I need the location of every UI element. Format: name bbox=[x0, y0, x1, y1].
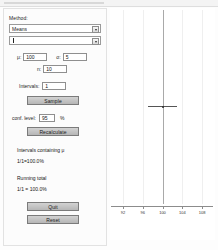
gridline bbox=[202, 10, 203, 204]
intervals-containing-heading: Intervals containing μ bbox=[9, 146, 101, 154]
control-panel: Method: Means μ: 100 σ: 5 n: 10 Interval… bbox=[3, 8, 107, 246]
titlebar-accent bbox=[4, 2, 104, 4]
confidence-interval-applet: Method: Means μ: 100 σ: 5 n: 10 Interval… bbox=[0, 0, 218, 250]
method-select-value: Means bbox=[10, 26, 27, 32]
x-axis-tick bbox=[123, 206, 124, 209]
x-axis-tick-label: 92 bbox=[121, 210, 125, 215]
window-titlebar bbox=[0, 0, 218, 7]
intervals-containing-value: 1/1=100.0% bbox=[9, 157, 101, 165]
confidence-interval-chart: 9296100104108 bbox=[110, 8, 215, 240]
reset-button[interactable]: Reset bbox=[27, 215, 79, 224]
quit-button[interactable]: Quit bbox=[27, 202, 79, 211]
text-caret bbox=[13, 38, 14, 43]
confidence-interval-center-dot bbox=[162, 106, 164, 108]
x-axis-tick bbox=[163, 206, 164, 209]
gridline bbox=[143, 10, 144, 204]
mu-input[interactable]: 100 bbox=[23, 53, 47, 61]
x-axis-tick-label: 100 bbox=[159, 210, 166, 215]
x-axis-tick-label: 104 bbox=[179, 210, 186, 215]
sample-button[interactable]: Sample bbox=[27, 96, 79, 105]
conf-level-label: conf. level: bbox=[12, 115, 36, 122]
n-label: n: bbox=[37, 66, 41, 73]
sigma-input[interactable]: 5 bbox=[63, 53, 87, 61]
statistic-select[interactable] bbox=[9, 36, 101, 45]
x-axis-tick bbox=[182, 206, 183, 209]
recalculate-button[interactable]: Recalculate bbox=[27, 127, 79, 136]
intervals-label: Intervals: bbox=[19, 83, 39, 90]
percent-label: % bbox=[60, 115, 64, 122]
chevron-down-icon[interactable] bbox=[92, 38, 99, 45]
x-axis-tick-label: 108 bbox=[199, 210, 206, 215]
gridline bbox=[182, 10, 183, 204]
intervals-input[interactable]: 1 bbox=[42, 82, 66, 90]
method-label: Method: bbox=[9, 15, 101, 22]
mu-label: μ: bbox=[17, 54, 21, 61]
x-axis-tick bbox=[143, 206, 144, 209]
conf-level-input[interactable]: 95 bbox=[39, 114, 55, 122]
sigma-label: σ: bbox=[56, 54, 60, 61]
gridline bbox=[123, 10, 124, 204]
x-axis-tick-label: 96 bbox=[140, 210, 144, 215]
x-axis-tick bbox=[202, 206, 203, 209]
running-total-value: 1/1 = 100.0% bbox=[9, 185, 101, 193]
n-input[interactable]: 10 bbox=[43, 65, 67, 73]
running-total-heading: Running total bbox=[9, 174, 101, 182]
chart-plot-area[interactable] bbox=[110, 8, 215, 206]
chevron-down-icon[interactable] bbox=[92, 26, 99, 33]
method-select[interactable]: Means bbox=[9, 24, 101, 33]
